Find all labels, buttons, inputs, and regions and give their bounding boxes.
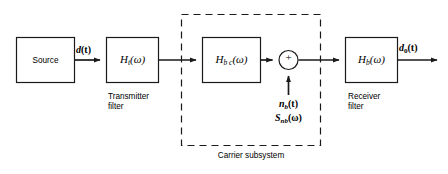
transmitter-filter-caption-line1: Transmitter [108, 92, 149, 102]
signal-system-output-arg: (t) [408, 42, 418, 53]
transmitter-filter-caption-line2: filter [108, 102, 149, 112]
receiver-filter-caption-line1: Receiver [348, 92, 380, 102]
signal-label-noise-spectrum: Snb(ω) [263, 112, 314, 125]
signal-source-output-arg: (t) [81, 44, 91, 55]
channel-filter-symbol: Hb c(ω) [202, 53, 261, 67]
signal-noise-time-arg: (t) [288, 98, 298, 109]
summing-junction-plus-sign: + [279, 52, 298, 63]
channel-filter-symbol-arg: (ω) [232, 53, 247, 65]
signal-label-source-output: d(t) [76, 44, 91, 55]
receiver-filter-symbol: Hb(ω) [345, 53, 398, 67]
receiver-filter-caption-line2: filter [348, 102, 380, 112]
source-block-label: Source [16, 56, 75, 66]
signal-noise-spectrum-sub: nb [281, 117, 288, 125]
receiver-filter-symbol-main: H [358, 53, 366, 65]
transmitter-filter-caption: Transmitter filter [108, 92, 149, 112]
transmitter-filter-symbol-main: H [120, 53, 128, 65]
signal-noise-spectrum-arg: (ω) [288, 112, 302, 123]
signal-label-noise-time: nb(t) [268, 98, 309, 111]
block-diagram-figure: Source Ht(ω) Transmitter filter Hb c(ω) … [0, 0, 448, 174]
carrier-subsystem-caption: Carrier subsystem [181, 151, 321, 160]
diagram-vector-layer [0, 0, 448, 174]
signal-label-system-output: d0(t) [399, 42, 418, 55]
transmitter-filter-symbol: Ht(ω) [106, 53, 159, 67]
transmitter-filter-symbol-arg: (ω) [130, 53, 145, 65]
receiver-filter-symbol-arg: (ω) [370, 53, 385, 65]
receiver-filter-caption: Receiver filter [348, 92, 380, 112]
